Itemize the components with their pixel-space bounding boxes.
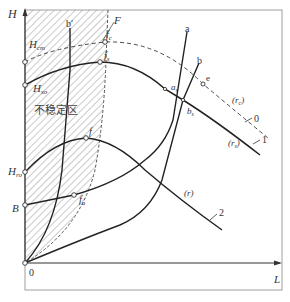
diagram-canvas: H L 0 Hcm Hso Hro B 不稳定区 F fc fs f fa b′… xyxy=(0,0,290,302)
b-s-point xyxy=(181,98,184,101)
e-label: e xyxy=(206,73,210,83)
F-label: F xyxy=(113,14,121,26)
origin-label: 0 xyxy=(29,267,34,278)
H-so-point xyxy=(23,83,28,88)
f-a-point xyxy=(72,193,77,198)
b-label: b xyxy=(197,55,202,66)
b-s-label: bs xyxy=(187,106,195,117)
f-s-point xyxy=(98,60,103,65)
curve-1-leader xyxy=(253,140,260,144)
e-point xyxy=(201,82,205,86)
unstable-region-label: 不稳定区 xyxy=(34,103,78,117)
r-c-label: (rc) xyxy=(232,95,244,106)
H-axis-label: H xyxy=(7,7,18,21)
pump-pipeline-characteristic-diagram: H L 0 Hcm Hso Hro B 不稳定区 F fc fs f fa b′… xyxy=(0,0,290,302)
a-s-label: as xyxy=(171,82,179,93)
r-s-label: (rs) xyxy=(228,138,240,149)
b-prime-label: b′ xyxy=(66,18,73,29)
curve-2-leader xyxy=(210,214,217,220)
r-label: (r) xyxy=(184,188,194,198)
curve-2-number: 2 xyxy=(219,207,224,218)
B-label: B xyxy=(12,202,19,214)
a-label: a xyxy=(185,23,190,34)
curve-1-number: 1 xyxy=(262,134,267,145)
a-s-point xyxy=(163,87,166,90)
H-ro-point xyxy=(23,170,28,175)
L-axis-label: L xyxy=(273,273,280,285)
B-point xyxy=(23,203,28,208)
f-point xyxy=(84,136,89,141)
L-axis-arrow-icon xyxy=(274,261,282,266)
curve-0-number: 0 xyxy=(254,113,259,124)
H-ro-label: Hro xyxy=(7,165,22,179)
H-cm-point xyxy=(23,60,28,65)
origin-point xyxy=(23,261,28,266)
f-c-point xyxy=(103,40,108,45)
